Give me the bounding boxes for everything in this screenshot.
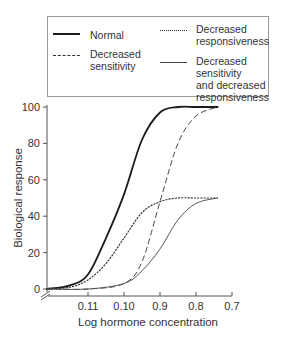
axis-break-mark — [41, 294, 50, 300]
y-axis-title: Biological response — [12, 148, 24, 248]
curves — [47, 107, 218, 290]
y-tick-label: 80 — [28, 137, 40, 149]
x-tick-label: 0.10 — [113, 300, 134, 312]
x-tick-label: 0.7 — [224, 300, 239, 312]
x-axis-title: Log hormone concentration — [78, 316, 218, 328]
y-tick-label: 60 — [28, 174, 40, 186]
y-tick-label: 40 — [28, 210, 40, 222]
x-tick-label: 0.8 — [188, 300, 203, 312]
y-tick-label: 20 — [28, 247, 40, 259]
x-tick-label: 0.11 — [78, 300, 99, 312]
y-tick-label: 0 — [34, 283, 40, 295]
x-tick-label: 0.9 — [152, 300, 167, 312]
curve-decreased-sensitivity-and-decreased-responsiveness — [47, 198, 218, 289]
y-tick-label: 100 — [22, 101, 40, 113]
line-chart: 0204060801000.110.100.90.80.7 Log hormon… — [0, 0, 282, 338]
curve-decreased-responsiveness — [47, 198, 218, 289]
